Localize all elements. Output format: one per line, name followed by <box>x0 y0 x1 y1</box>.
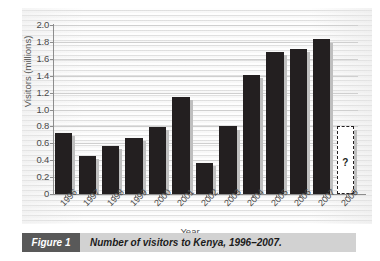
y-tick-mark <box>50 126 54 127</box>
bar <box>290 49 307 194</box>
gridline <box>53 25 358 26</box>
figure-container: 00.20.40.60.81.01.21.41.61.82.0 ? 199619… <box>8 4 372 257</box>
figure-number-tag: Figure 1 <box>22 233 80 252</box>
bar <box>55 133 72 194</box>
bar <box>266 52 283 194</box>
figure-screenshot: 00.20.40.60.81.01.21.41.61.82.0 ? 199619… <box>0 0 380 261</box>
y-tick-label: 0 <box>23 189 49 199</box>
y-tick-mark <box>50 110 54 111</box>
bar <box>219 126 236 194</box>
y-tick-label: 0.2 <box>23 172 49 182</box>
y-axis-title: Visitors (millions) <box>22 17 33 127</box>
y-tick-label: 0.6 <box>23 138 49 148</box>
y-tick-mark <box>50 76 54 77</box>
bar <box>172 97 189 194</box>
y-tick-mark <box>50 194 54 195</box>
bar <box>125 138 142 194</box>
y-tick-mark <box>50 25 54 26</box>
y-tick-mark <box>50 42 54 43</box>
y-tick-mark <box>50 93 54 94</box>
y-tick-mark <box>50 143 54 144</box>
bar <box>102 146 119 194</box>
y-tick-mark <box>50 59 54 60</box>
y-tick-label: 0.4 <box>23 155 49 165</box>
figure-caption-text: Number of visitors to Kenya, 1996–2007. <box>80 237 282 248</box>
unknown-value-question-mark: ? <box>337 157 354 168</box>
figure-caption-bar: Figure 1 Number of visitors to Kenya, 19… <box>22 233 356 252</box>
y-tick-mark <box>50 177 54 178</box>
bar <box>149 127 166 194</box>
bar <box>243 75 260 194</box>
y-tick-mark <box>50 160 54 161</box>
bar <box>313 39 330 194</box>
